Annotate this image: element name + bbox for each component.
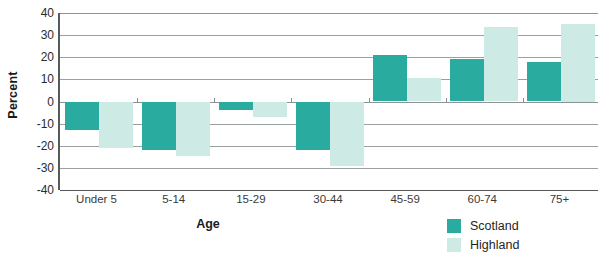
bar-scotland [527,62,561,102]
plot-area [58,13,598,190]
y-axis-tick-label: 20 [22,50,54,64]
bar-scotland [142,102,176,151]
y-axis-tick-label: 0 [22,95,54,109]
y-axis-tick-label: -20 [22,139,54,153]
y-axis-tick-label: 40 [22,6,54,20]
bar-group [291,13,368,190]
y-axis-tick-label: -30 [22,161,54,175]
gridline [60,190,598,191]
y-axis-title: Percent [2,0,24,190]
bar-scotland [296,102,330,151]
x-axis-tick-mark [214,98,215,103]
legend-item: Highland [447,235,519,254]
bar-scotland [450,59,484,101]
bar-group [446,13,523,190]
legend-label: Highland [470,238,519,252]
bar-highland [407,78,441,101]
bar-highland [561,24,595,101]
legend-label: Scotland [470,219,519,233]
bar-scotland [65,102,99,131]
bar-highland [484,27,518,101]
y-axis-tick-label: -40 [22,183,54,197]
x-axis-tick-labels: Under 55-1415-2930-4445-5960-7475+ [58,193,598,211]
legend-swatch-icon [447,238,461,252]
x-axis-tick-mark [137,98,138,103]
x-axis-tick-mark [446,98,447,103]
bar-scotland [373,55,407,101]
bar-highland [99,102,133,148]
chart-legend: ScotlandHighland [447,216,519,254]
x-axis-title: Age [58,217,358,231]
legend-item: Scotland [447,216,519,235]
bar-group [60,13,137,190]
y-axis-title-text: Percent [6,71,20,118]
bar-group [369,13,446,190]
legend-swatch-icon [447,219,461,233]
x-axis-tick-mark [523,98,524,103]
bar-highland [253,102,287,117]
bar-group [523,13,600,190]
bar-scotland [219,102,253,111]
chart-figure: Percent 403020100-10-20-30-40 Under 55-1… [0,0,604,263]
y-axis-tick-label: -10 [22,117,54,131]
x-axis-tick-label: 75+ [514,193,604,205]
x-axis-tick-mark [291,98,292,103]
bar-group [137,13,214,190]
bar-group [214,13,291,190]
bar-highland [176,102,210,156]
x-axis-tick-mark [369,98,370,103]
bar-highland [330,102,364,166]
y-axis-tick-label: 30 [22,28,54,42]
y-axis-tick-label: 10 [22,72,54,86]
